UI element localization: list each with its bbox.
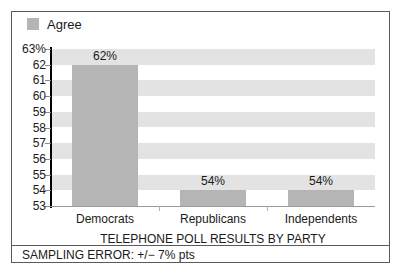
x-axis-category-label: Republicans: [159, 213, 267, 226]
y-axis-label: 58: [12, 122, 46, 134]
y-axis-label: 61: [12, 74, 46, 86]
legend-label-agree: Agree: [47, 18, 82, 31]
bar-republicans: [180, 190, 246, 206]
x-axis-category-label: Democrats: [51, 213, 159, 226]
bar-independents: [288, 190, 354, 206]
bar-value-label: 62%: [65, 50, 145, 62]
y-axis-label: 54: [12, 184, 46, 196]
footer-divider: [12, 245, 389, 246]
chart-legend: Agree: [27, 15, 82, 33]
bar-democrats: [72, 65, 138, 206]
y-axis-label: 59: [12, 106, 46, 118]
y-axis-label: 53: [12, 200, 46, 212]
chart-figure: Agree TELEPHONE POLL RESULTS BY PARTY SA…: [0, 0, 400, 279]
y-axis-label: 56: [12, 153, 46, 165]
x-axis-tick: [159, 206, 160, 211]
bar-value-label: 54%: [281, 175, 361, 187]
y-axis-label: 55: [12, 169, 46, 181]
y-axis-label: 60: [12, 90, 46, 102]
x-axis-line: [51, 206, 375, 207]
legend-swatch-icon: [27, 18, 39, 30]
y-axis-label: 62: [12, 59, 46, 71]
sampling-error-note: SAMPLING ERROR: +/− 7% pts: [22, 249, 195, 262]
y-axis-label: 57: [12, 137, 46, 149]
bar-value-label: 54%: [173, 175, 253, 187]
y-axis-label: 63%: [12, 43, 46, 55]
x-axis-category-label: Independents: [267, 213, 375, 226]
x-axis-tick: [267, 206, 268, 211]
